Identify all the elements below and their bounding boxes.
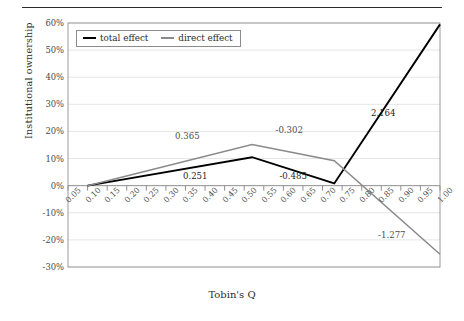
y-tick-label: -10%: [30, 208, 64, 218]
chart-plot-area: [0, 0, 464, 321]
figure-container: 60%50%40%30%20%10%0%-10%-20%-30% 0.050.1…: [0, 0, 464, 321]
y-tick-label: 20%: [30, 126, 64, 136]
y-tick-label: -20%: [30, 235, 64, 245]
legend-item-total-effect: total effect: [83, 34, 148, 43]
data-label-0485: -0.485: [279, 171, 307, 181]
x-axis-title: Tobin's Q: [0, 289, 464, 300]
data-label-2164: 2.164: [371, 108, 396, 118]
y-tick-label: 30%: [30, 99, 64, 109]
legend-swatch-total-effect: [83, 37, 96, 39]
y-tick-label: 40%: [30, 72, 64, 82]
y-tick-label: 60%: [30, 18, 64, 28]
y-tick-label: 0%: [30, 181, 64, 191]
data-label-0251: 0.251: [183, 171, 208, 181]
data-label-0365: 0.365: [175, 131, 200, 141]
series-line-total-effect: [88, 24, 440, 185]
y-tick-label: 10%: [30, 154, 64, 164]
series-lines-group: [88, 24, 440, 254]
y-tick-label: 50%: [30, 45, 64, 55]
y-tick-label: -30%: [30, 262, 64, 272]
data-label-0302: -0.302: [275, 125, 303, 135]
data-label-1277: -1.277: [378, 230, 406, 240]
legend-label-direct-effect: direct effect: [178, 34, 232, 43]
legend-label-total-effect: total effect: [100, 34, 148, 43]
legend-swatch-direct-effect: [161, 37, 174, 39]
legend-item-direct-effect: direct effect: [161, 34, 232, 43]
chart-legend: total effect direct effect: [76, 30, 241, 47]
y-axis-title: Institutional ownership: [23, 1, 34, 161]
